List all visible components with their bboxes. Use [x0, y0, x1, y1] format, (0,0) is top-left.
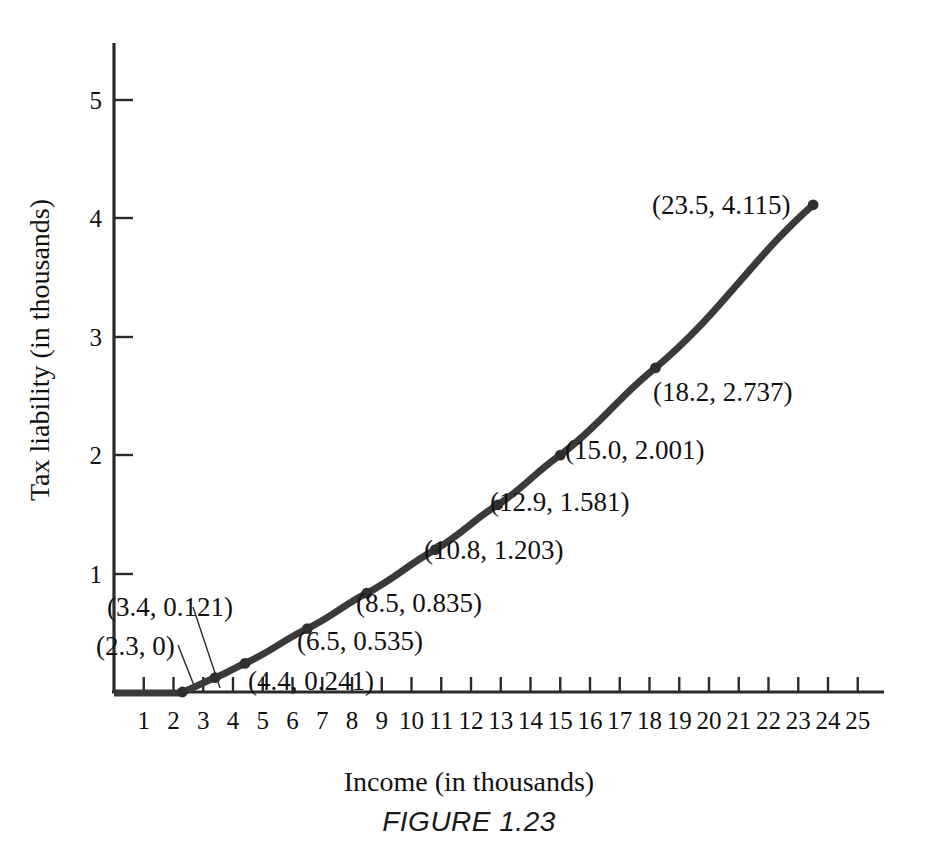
x-tick-label: 12 — [459, 708, 484, 733]
y-tick-label: 1 — [76, 561, 102, 586]
x-tick-label: 14 — [518, 708, 543, 733]
x-tick-label: 7 — [316, 708, 329, 733]
x-tick-label: 23 — [786, 708, 811, 733]
x-tick-label: 1 — [138, 708, 151, 733]
x-tick-label: 22 — [756, 708, 781, 733]
x-tick-label: 10 — [399, 708, 424, 733]
data-point-marker — [210, 672, 221, 683]
data-point-label: (12.9, 1.581) — [490, 489, 629, 516]
x-tick-label: 24 — [816, 708, 841, 733]
x-tick-label: 9 — [376, 708, 389, 733]
data-point-marker — [650, 363, 661, 374]
y-axis-title: Tax liability (in thousands) — [24, 100, 56, 600]
data-point-label: (18.2, 2.737) — [653, 379, 792, 406]
data-point-marker — [177, 687, 188, 698]
x-tick-label: 3 — [197, 708, 210, 733]
x-axis-title: Income (in thousands) — [0, 766, 938, 798]
plot-area — [0, 0, 938, 867]
x-tick-label: 15 — [548, 708, 573, 733]
data-point-label: (2.3, 0) — [96, 633, 175, 660]
y-tick-label: 5 — [76, 88, 102, 113]
figure-caption: FIGURE 1.23 — [0, 806, 938, 838]
x-tick-label: 20 — [697, 708, 722, 733]
x-tick-label: 8 — [346, 708, 359, 733]
tax-curve — [182, 205, 813, 692]
x-tick-label: 13 — [488, 708, 513, 733]
data-point-label: (4.4, 0.241) — [248, 668, 374, 695]
data-point-marker — [808, 199, 819, 210]
x-tick-label: 6 — [286, 708, 299, 733]
data-point-label: (6.5, 0.535) — [297, 628, 423, 655]
data-point-label: (3.4, 0.121) — [107, 594, 233, 621]
y-tick-label: 3 — [76, 324, 102, 349]
x-tick-label: 21 — [726, 708, 751, 733]
y-axis-ticks — [114, 100, 133, 574]
x-tick-label: 18 — [637, 708, 662, 733]
x-tick-label: 16 — [578, 708, 603, 733]
data-point-label: (23.5, 4.115) — [652, 192, 790, 219]
y-tick-label: 2 — [76, 443, 102, 468]
figure-container: 12345 1234567891011121314151617181920212… — [0, 0, 938, 867]
data-point-label: (10.8, 1.203) — [424, 537, 563, 564]
data-point-label: (8.5, 0.835) — [356, 590, 482, 617]
x-tick-label: 5 — [257, 708, 270, 733]
x-tick-label: 17 — [607, 708, 632, 733]
y-tick-label: 4 — [76, 206, 102, 231]
data-point-label: (15.0, 2.001) — [565, 437, 704, 464]
x-tick-label: 2 — [167, 708, 180, 733]
data-point-markers — [177, 199, 818, 697]
x-tick-label: 19 — [667, 708, 692, 733]
x-tick-label: 11 — [429, 708, 453, 733]
x-tick-label: 25 — [845, 708, 870, 733]
x-tick-label: 4 — [227, 708, 240, 733]
